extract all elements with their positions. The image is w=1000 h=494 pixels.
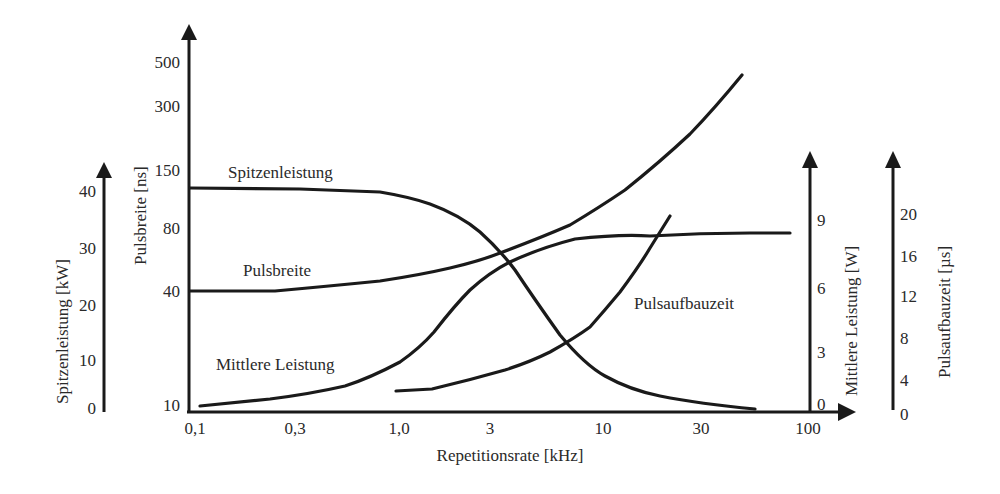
x-tick: 0,1 bbox=[184, 419, 205, 438]
spitzen-tick-labels: 40 30 20 10 0 bbox=[79, 182, 96, 418]
aufbau-tick: 12 bbox=[900, 287, 917, 306]
x-axis-title: Repetitionsrate [kHz] bbox=[437, 446, 584, 465]
pulsbreite-tick: 150 bbox=[155, 161, 181, 180]
curve-pulsaufbauzeit bbox=[396, 216, 670, 391]
pulsbreite-tick: 10 bbox=[163, 396, 180, 415]
x-tick: 1,0 bbox=[388, 419, 409, 438]
chart: 500 300 150 80 40 10 Pulsbreite [ns] 40 … bbox=[0, 0, 1000, 494]
x-tick: 100 bbox=[795, 419, 821, 438]
mittlere-tick: 3 bbox=[817, 343, 826, 362]
aufbau-tick: 0 bbox=[900, 405, 909, 424]
spitzen-axis-arrow-icon bbox=[96, 162, 112, 178]
pulsbreite-tick-labels: 500 300 150 80 40 10 bbox=[155, 53, 181, 415]
aufbau-axis-title: Pulsaufbauzeit [µs] bbox=[935, 246, 954, 378]
curve-mittlere-leistung bbox=[200, 233, 790, 406]
mittlere-tick: 6 bbox=[817, 279, 826, 298]
mittlere-tick: 9 bbox=[817, 211, 826, 230]
mittlere-axis-arrow-icon bbox=[802, 151, 818, 168]
mittlere-tick: 0 bbox=[817, 395, 826, 414]
pulsbreite-tick: 300 bbox=[155, 97, 181, 116]
x-tick-labels: 0,1 0,3 1,0 3 10 30 100 bbox=[184, 419, 820, 438]
aufbau-tick: 4 bbox=[900, 371, 909, 390]
aufbau-tick-labels: 20 16 12 8 4 0 bbox=[900, 205, 917, 424]
x-tick: 3 bbox=[486, 419, 495, 438]
label-pulsaufbauzeit: Pulsaufbauzeit bbox=[634, 294, 734, 313]
pulsbreite-axis-title: Pulsbreite [ns] bbox=[131, 166, 150, 265]
spitzen-tick: 0 bbox=[88, 399, 97, 418]
curve-pulsbreite bbox=[190, 75, 742, 291]
aufbau-axis-arrow-icon bbox=[885, 151, 901, 168]
mittlere-tick-labels: 9 6 3 0 bbox=[817, 211, 826, 414]
aufbau-tick: 16 bbox=[900, 247, 917, 266]
x-axis-arrow-icon bbox=[838, 403, 856, 421]
label-mittlere-leistung: Mittlere Leistung bbox=[216, 355, 335, 374]
aufbau-tick: 20 bbox=[900, 205, 917, 224]
x-tick: 30 bbox=[693, 419, 710, 438]
spitzen-axis-title: Spitzenleistung [kW] bbox=[53, 259, 72, 404]
pulsbreite-tick: 40 bbox=[163, 282, 180, 301]
spitzen-tick: 40 bbox=[79, 182, 96, 201]
label-pulsbreite: Pulsbreite bbox=[243, 261, 311, 280]
spitzen-tick: 20 bbox=[79, 296, 96, 315]
x-tick: 0,3 bbox=[284, 419, 305, 438]
aufbau-tick: 8 bbox=[900, 329, 909, 348]
pulsbreite-tick: 80 bbox=[163, 219, 180, 238]
label-spitzenleistung: Spitzenleistung bbox=[228, 163, 333, 182]
pulsbreite-tick: 500 bbox=[155, 53, 181, 72]
spitzen-tick: 10 bbox=[79, 351, 96, 370]
mittlere-axis-title: Mittlere Leistung [W] bbox=[842, 246, 861, 396]
pulsbreite-axis-arrow-icon bbox=[181, 24, 197, 40]
spitzen-tick: 30 bbox=[79, 239, 96, 258]
x-tick: 10 bbox=[595, 419, 612, 438]
